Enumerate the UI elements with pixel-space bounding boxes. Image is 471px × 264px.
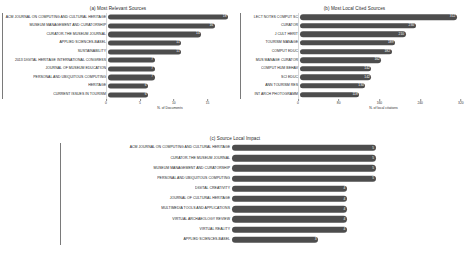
bar-row: ANN TOURISM RES130 — [240, 82, 469, 91]
panel-c-plot: ACM JOURNAL ON COMPUTING AND CULTURAL HE… — [60, 143, 410, 252]
bar-value-label: 6 — [145, 84, 147, 87]
bar-row: SCI EDUC142 — [240, 73, 469, 82]
bar-row: MUSEUM MANAGEMENT AND CURATORSHIP5 — [60, 163, 410, 173]
bar-value-label: 5 — [372, 167, 374, 170]
bar-value-label: 4 — [343, 228, 345, 231]
bar-value-label: 230 — [409, 24, 415, 27]
bar-track: 189 — [300, 39, 469, 48]
bar-track: 130 — [300, 82, 469, 91]
panel-a-bar-rows: ACM JOURNAL ON COMPUTING AND CULTURAL HE… — [2, 13, 234, 99]
bar-row: J CULT HERIT210 — [240, 30, 469, 39]
bar-row: MUSEUM MANAGEMENT AND CURATORSHIP16 — [2, 22, 234, 31]
bar-track: 7 — [108, 65, 234, 74]
bar-category-label: SUSTAINABILITY — [2, 50, 108, 54]
bar-category-label: APPLIED SCIENCES-BASEL — [60, 238, 232, 242]
bar-value-label: 210 — [399, 33, 405, 36]
bar-track: 6 — [108, 82, 234, 91]
bar-value-label: 6 — [145, 93, 147, 96]
bar-row: APPLIED SCIENCES-BASEL3 — [60, 235, 410, 245]
bar-row: MULTIMEDIA TOOLS AND APPLICATIONS4 — [60, 204, 410, 214]
bar: 16 — [108, 23, 215, 28]
bar-track: 7 — [108, 56, 234, 65]
bar-row: JOURNAL OF CULTURAL HERITAGE4 — [60, 194, 410, 204]
bar: 312 — [300, 15, 457, 20]
bar-track: 4 — [232, 184, 410, 194]
panel-a-x-axis-ticks: 051015 — [106, 99, 234, 106]
panel-most-local-cited-sources: (b) Most Local Cited Sources LECT NOTES … — [240, 6, 469, 110]
bar-value-label: 3 — [315, 238, 317, 241]
bar-track: 162 — [300, 56, 469, 65]
bar-category-label: PERSONAL AND UBIQUITOUS COMPUTING — [2, 76, 108, 80]
bar-track: 11 — [108, 39, 234, 48]
bar-track: 4 — [232, 225, 410, 235]
bar-row: MUS MANAGE CURATOR162 — [240, 56, 469, 65]
bar-value-label: 118 — [353, 93, 358, 96]
bar-value-label: 189 — [388, 41, 394, 44]
bar-row: ACM JOURNAL ON COMPUTING AND CULTURAL HE… — [2, 13, 234, 22]
bar-category-label: LECT NOTES COMPUT SC — [240, 16, 300, 20]
bar-category-label: CURRENT ISSUES IN TOURISM — [2, 93, 108, 97]
bar-category-label: MUS MANAGE CURATOR — [240, 58, 300, 62]
bar: 5 — [232, 175, 376, 181]
x-tick-label: 0 — [105, 99, 107, 105]
bar-value-label: 16 — [209, 24, 213, 27]
bar-row: PERSONAL AND UBIQUITOUS COMPUTING5 — [60, 174, 410, 184]
bar-row: SUSTAINABILITY11 — [2, 47, 234, 56]
bar-category-label: ACM JOURNAL ON COMPUTING AND CULTURAL HE… — [2, 16, 108, 20]
bar: 14 — [108, 32, 201, 37]
bar-category-label: MULTIMEDIA TOOLS AND APPLICATIONS — [60, 207, 232, 211]
bar-value-label: 7 — [151, 76, 153, 79]
panel-b-x-axis-label: N. of local citations — [298, 106, 469, 110]
bar-track: 11 — [108, 47, 234, 56]
bar-category-label: J CULT HERIT — [240, 33, 300, 37]
bar-value-label: 11 — [176, 41, 179, 44]
bar-category-label: JOURNAL OF CULTURAL HERITAGE — [60, 197, 232, 201]
bar-row: CURATOR-THE MUSEUM JOURNAL5 — [60, 153, 410, 163]
bar-value-label: 4 — [343, 208, 345, 211]
bar-row: HERITAGE6 — [2, 82, 234, 91]
bar-value-label: 162 — [374, 59, 380, 62]
bar-row: LECT NOTES COMPUT SC312 — [240, 13, 469, 22]
bar: 142 — [300, 66, 371, 71]
bar-category-label: TOURISM MANAGE — [240, 41, 300, 45]
bar-track: 4 — [232, 214, 410, 224]
panel-a-plot: ACM JOURNAL ON COMPUTING AND CULTURAL HE… — [2, 13, 234, 110]
bar-row: JOURNAL OF MUSEUM EDUCATION7 — [2, 65, 234, 74]
panel-c-title: (c) Source Local Impact — [60, 136, 410, 141]
panel-a-title: (a) Most Relevant Sources — [2, 6, 234, 11]
bar: 5 — [232, 145, 376, 151]
bar: 230 — [300, 23, 416, 28]
bar-row: TOURISM MANAGE189 — [240, 39, 469, 48]
bar-value-label: 142 — [364, 76, 370, 79]
bar-category-label: COMPUT HUM BEHAV — [240, 67, 300, 71]
bar-track: 5 — [232, 143, 410, 153]
x-tick-label: 10 — [172, 99, 176, 105]
bar: 162 — [300, 58, 381, 63]
bar-category-label: ANN TOURISM RES — [240, 84, 300, 88]
bar: 3 — [232, 237, 318, 243]
bar-value-label: 4 — [343, 197, 345, 200]
bar: 11 — [108, 49, 181, 54]
bar-category-label: JOURNAL OF MUSEUM EDUCATION — [2, 67, 108, 71]
bar-category-label: 2013 DIGITAL HERITAGE INTERNATIONAL CONG… — [2, 58, 108, 62]
bar-category-label: VIRTUAL ARCHAEOLOGY REVIEW — [60, 218, 232, 222]
bar-track: 182 — [300, 47, 469, 56]
bar: 210 — [300, 32, 406, 37]
bar-row: COMPUT HUM BEHAV142 — [240, 65, 469, 74]
bar-row: CURRENT ISSUES IN TOURISM6 — [2, 90, 234, 99]
bar-track: 142 — [300, 65, 469, 74]
bar-track: 14 — [108, 30, 234, 39]
panel-b-x-axis-ticks: 080160240320 — [298, 99, 469, 106]
panel-c-x-axis-ticks — [230, 245, 410, 252]
bar-track: 210 — [300, 30, 469, 39]
bar-row: VIRTUAL REALITY4 — [60, 225, 410, 235]
x-tick-label: 0 — [297, 99, 299, 105]
bar-category-label: CURATOR-THE MUSEUM JOURNAL — [60, 156, 232, 160]
bar-row: VIRTUAL ARCHAEOLOGY REVIEW4 — [60, 214, 410, 224]
bar-value-label: 14 — [196, 33, 200, 36]
bar: 118 — [300, 92, 359, 97]
bar-track: 118 — [300, 90, 469, 99]
x-tick-label: 80 — [337, 99, 341, 105]
bar-track: 18 — [108, 13, 234, 22]
bar-category-label: COMPUT EDUC — [240, 50, 300, 54]
